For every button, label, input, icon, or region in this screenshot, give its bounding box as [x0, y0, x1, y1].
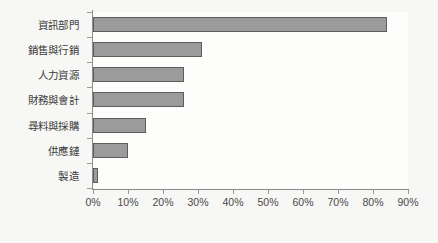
bar-row: [93, 62, 408, 87]
category-label: 製造: [0, 163, 86, 188]
x-axis-tick: [408, 190, 409, 194]
bar-row: [93, 37, 408, 62]
bar-row: [93, 163, 408, 188]
category-axis-labels: 資訊部門銷售與行銷人力資源財務與會計尋料與採購供應鏈製造: [0, 12, 86, 188]
category-label: 尋料與採購: [0, 113, 86, 138]
x-axis-tick: [373, 190, 374, 194]
bar-row: [93, 138, 408, 163]
x-axis-tick-label: 90%: [397, 196, 418, 208]
x-axis-tick: [268, 190, 269, 194]
y-axis-tick: [87, 138, 92, 139]
x-axis-tick-label: 0%: [85, 196, 100, 208]
category-label: 銷售與行銷: [0, 37, 86, 62]
bar: [93, 17, 387, 32]
y-axis-line: [92, 10, 93, 190]
bar-row: [93, 87, 408, 112]
category-label: 供應鏈: [0, 138, 86, 163]
x-axis-tick: [198, 190, 199, 194]
x-axis-tick: [303, 190, 304, 194]
x-axis-tick-label: 60%: [292, 196, 313, 208]
bar: [93, 92, 184, 107]
bar: [93, 42, 202, 57]
x-axis-tick-label: 80%: [362, 196, 383, 208]
y-axis-tick: [87, 12, 92, 13]
y-axis-tick: [87, 163, 92, 164]
x-axis-tick-label: 40%: [222, 196, 243, 208]
x-axis-line: [92, 189, 409, 190]
plot-area: [93, 12, 408, 188]
x-axis-tick-label: 20%: [152, 196, 173, 208]
bar-row: [93, 12, 408, 37]
bar: [93, 118, 146, 133]
y-axis-tick: [87, 113, 92, 114]
x-axis-tick: [163, 190, 164, 194]
y-axis-tick: [87, 62, 92, 63]
x-axis-tick: [233, 190, 234, 194]
bar: [93, 168, 98, 183]
category-label: 資訊部門: [0, 12, 86, 37]
bar-row: [93, 113, 408, 138]
x-axis-tick: [128, 190, 129, 194]
x-axis-tick: [338, 190, 339, 194]
x-axis-tick-label: 30%: [187, 196, 208, 208]
y-axis-tick: [87, 87, 92, 88]
bar: [93, 143, 128, 158]
bar-chart: 資訊部門銷售與行銷人力資源財務與會計尋料與採購供應鏈製造 0%10%20%30%…: [0, 0, 438, 243]
category-label: 財務與會計: [0, 87, 86, 112]
y-axis-tick: [87, 37, 92, 38]
value-axis-labels: 0%10%20%30%40%50%60%70%80%90%: [0, 196, 438, 216]
x-axis-tick: [93, 190, 94, 194]
x-axis-tick-label: 10%: [117, 196, 138, 208]
bar: [93, 67, 184, 82]
x-axis-tick-label: 70%: [327, 196, 348, 208]
category-label: 人力資源: [0, 62, 86, 87]
y-axis-tick: [87, 188, 92, 189]
x-axis-tick-label: 50%: [257, 196, 278, 208]
